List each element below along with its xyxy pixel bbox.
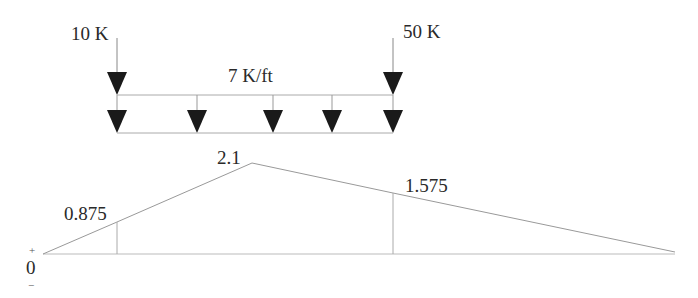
arrow-down-icon bbox=[383, 110, 403, 133]
arrow-down-icon bbox=[107, 72, 127, 95]
plus-sign: + bbox=[29, 245, 35, 256]
arrow-down-icon bbox=[383, 72, 403, 95]
arrow-down-icon bbox=[322, 110, 342, 133]
right-value-label: 1.575 bbox=[405, 176, 448, 195]
minus-sign: − bbox=[28, 280, 34, 291]
beam-diagram: 10 K 50 K 7 K/ft 2.1 0.875 1.575 + 0 − bbox=[0, 0, 698, 298]
arrow-down-icon bbox=[107, 110, 127, 133]
diagram-graphics bbox=[0, 0, 698, 298]
arrow-down-icon bbox=[263, 110, 283, 133]
point-load-right-label: 50 K bbox=[403, 22, 440, 41]
diagram-curve bbox=[43, 163, 675, 254]
left-value-label: 0.875 bbox=[64, 204, 107, 223]
distributed-load-label: 7 K/ft bbox=[228, 66, 273, 85]
point-load-left-label: 10 K bbox=[71, 24, 108, 43]
arrow-down-icon bbox=[187, 110, 207, 133]
zero-label: 0 bbox=[26, 258, 36, 277]
peak-value-label: 2.1 bbox=[217, 148, 241, 167]
